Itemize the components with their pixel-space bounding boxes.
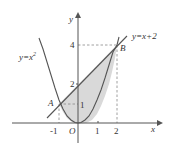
y-tick-label-1: 1: [80, 100, 85, 110]
point-B-label: B: [120, 43, 126, 53]
y-axis-arrow-icon: [75, 12, 81, 18]
y-tick-label-2: 2: [70, 79, 75, 89]
diagram-canvas: x y O -1 1 2 1 2 4 A B y=x2 y=x+2: [0, 0, 174, 159]
x-tick-label-1: 1: [95, 126, 100, 136]
shaded-region: [59, 45, 117, 124]
line-label: y=x+2: [131, 31, 157, 41]
x-axis-arrow-icon: [157, 120, 163, 126]
parabola-label: y=x2: [18, 51, 36, 62]
y-tick-label-4: 4: [70, 40, 75, 50]
y-axis-label: y: [68, 14, 73, 24]
figure: x y O -1 1 2 1 2 4 A B y=x2 y=x+2: [0, 0, 174, 159]
x-tick-label-neg1: -1: [50, 126, 58, 136]
x-axis-label: x: [150, 124, 155, 134]
origin-label: O: [69, 126, 76, 136]
x-tick-label-2: 2: [114, 126, 119, 136]
point-A-label: A: [47, 98, 54, 108]
